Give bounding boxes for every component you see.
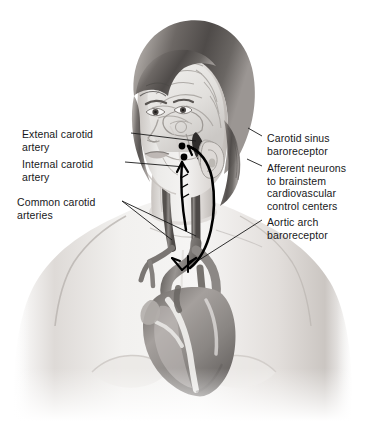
ear <box>200 142 224 179</box>
label-afferent-neurons: Afferent neurons to brainstem cardiovasc… <box>267 162 346 212</box>
baroreceptor-figure: Extenal carotid artery Internal carotid … <box>0 0 367 421</box>
label-common-carotid-arteries: Common carotid arteries <box>17 196 96 221</box>
label-aortic-arch-baroreceptor: Aortic arch baroreceptor <box>267 216 328 241</box>
label-internal-carotid-artery: Internal carotid artery <box>22 158 93 183</box>
label-carotid-sinus-baroreceptor: Carotid sinus baroreceptor <box>267 132 330 157</box>
head-group <box>132 20 255 206</box>
label-external-carotid-artery: Extenal carotid artery <box>22 128 93 153</box>
